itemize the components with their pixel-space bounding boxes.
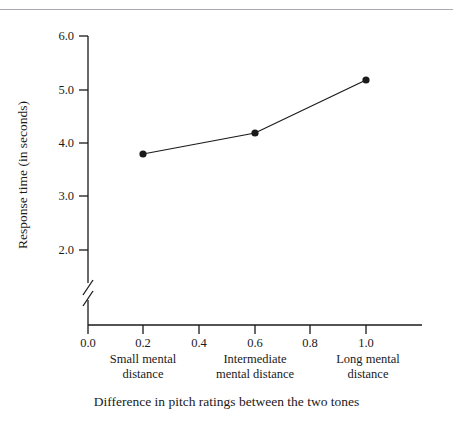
data-point-small-mental-distance — [139, 150, 146, 157]
category-label-intermediate-mental-distance: Intermediate mental distance — [195, 352, 315, 382]
category-label-small-mental-distance: Small mental distance — [83, 352, 203, 382]
y-axis-title: Response time (in seconds) — [12, 60, 34, 290]
y-tick-label-5.0: 5.0 — [40, 83, 74, 98]
category-label-line1: Small mental — [83, 352, 203, 367]
y-axis-title-text: Response time (in seconds) — [15, 101, 31, 249]
y-tick-label-2.0: 2.0 — [40, 243, 74, 258]
data-point-long-mental-distance — [362, 76, 369, 83]
x-tick-label-0.4: 0.4 — [179, 336, 219, 351]
x-tick-label-0.8: 0.8 — [290, 336, 330, 351]
category-label-long-mental-distance: Long mental distance — [308, 352, 428, 382]
category-label-line2: distance — [83, 367, 203, 382]
category-label-line1: Intermediate — [195, 352, 315, 367]
data-point-intermediate-mental-distance — [251, 129, 258, 136]
line-chart-figure: Response time (in seconds) 6.0 5.0 4.0 3… — [0, 0, 453, 422]
category-label-line2: distance — [308, 367, 428, 382]
category-label-line2: mental distance — [195, 367, 315, 382]
x-axis-title: Difference in pitch ratings between the … — [0, 394, 453, 410]
category-label-line1: Long mental — [308, 352, 428, 367]
x-tick-label-0.0: 0.0 — [68, 336, 108, 351]
y-tick-label-3.0: 3.0 — [40, 189, 74, 204]
x-tick-label-1.0: 1.0 — [346, 336, 386, 351]
y-tick-label-4.0: 4.0 — [40, 136, 74, 151]
data-line-response-time — [143, 80, 366, 154]
y-tick-label-6.0: 6.0 — [40, 29, 74, 44]
x-tick-label-0.2: 0.2 — [123, 336, 163, 351]
x-tick-label-0.6: 0.6 — [235, 336, 275, 351]
